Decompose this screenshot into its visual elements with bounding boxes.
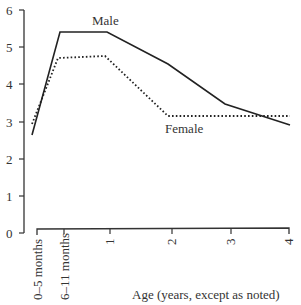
x-tick-0-5-months: 0–5 months: [30, 239, 45, 300]
y-tick-6: 6: [6, 3, 13, 18]
y-tick-4: 4: [6, 77, 13, 92]
series-label-male: Male: [92, 13, 119, 28]
y-ticks: [19, 10, 24, 233]
series-male-line: [32, 32, 290, 135]
y-tick-0: 0: [6, 226, 13, 241]
x-tick-1: 1: [102, 239, 117, 246]
x-tick-2: 2: [164, 239, 179, 246]
x-axis-title: Age (years, except as noted): [132, 287, 280, 302]
x-tick-3: 3: [223, 239, 238, 246]
y-tick-labels: 6 5 4 3 2 1 0: [6, 3, 13, 241]
x-tick-6-11-months: 6–11 months: [57, 233, 72, 300]
series-label-female: Female: [165, 121, 203, 136]
x-axis: [37, 228, 289, 235]
y-tick-1: 1: [6, 189, 13, 204]
y-tick-5: 5: [6, 40, 13, 55]
y-tick-2: 2: [6, 152, 13, 167]
line-chart: 6 5 4 3 2 1 0 0–5 months 6–11 months 1 2…: [0, 0, 301, 305]
y-tick-3: 3: [6, 115, 13, 130]
series-female-line: [32, 56, 290, 124]
x-tick-4: 4: [281, 238, 296, 245]
